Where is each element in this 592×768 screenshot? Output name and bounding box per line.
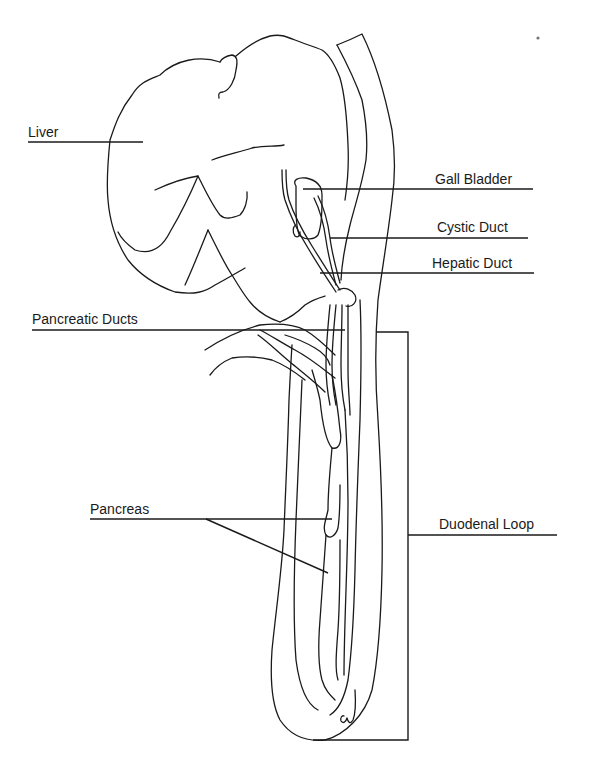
leader-pancreas-diagonal <box>206 519 328 573</box>
liver-outline <box>107 35 348 322</box>
anatomy-diagram <box>0 0 592 768</box>
speck-mark <box>536 36 539 39</box>
label-hepatic-duct: Hepatic Duct <box>432 255 512 271</box>
label-pancreas: Pancreas <box>90 501 149 517</box>
label-gall-bladder: Gall Bladder <box>435 171 512 187</box>
pancreas-outline <box>205 305 350 700</box>
label-cystic-duct: Cystic Duct <box>437 219 508 235</box>
label-duodenal-loop: Duodenal Loop <box>439 516 534 532</box>
label-liver: Liver <box>28 124 58 140</box>
label-pancreatic-ducts: Pancreatic Ducts <box>32 311 138 327</box>
